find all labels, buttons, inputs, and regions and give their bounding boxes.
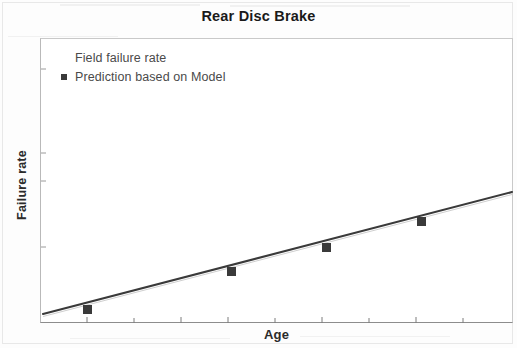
- x-axis-title: Age: [40, 327, 513, 342]
- scan-noise-streak: [230, 5, 410, 7]
- series-prediction-markers: [83, 217, 426, 314]
- y-axis-ticks: [41, 69, 46, 247]
- chart-figure: Rear Disc Brake: [0, 0, 517, 348]
- legend-label-prediction-based-on-model: Prediction based on Model: [75, 70, 226, 84]
- data-point-marker: [322, 243, 331, 252]
- chart-legend: Field failure rate Prediction based on M…: [57, 48, 297, 86]
- data-point-marker: [83, 305, 92, 314]
- chart-title: Rear Disc Brake: [0, 8, 517, 24]
- legend-item-field-failure-rate: Field failure rate: [57, 48, 297, 67]
- x-axis-ticks: [87, 317, 463, 323]
- legend-label-field-failure-rate: Field failure rate: [75, 51, 166, 65]
- y-axis-title: Failure rate: [15, 130, 29, 240]
- scan-noise-streak: [60, 4, 200, 6]
- scan-noise-streak: [8, 36, 118, 37]
- series-field-failure-rate-line: [43, 192, 512, 314]
- data-point-marker: [227, 267, 236, 276]
- legend-marker-square-icon: [57, 71, 71, 82]
- data-point-marker: [417, 217, 426, 226]
- legend-item-prediction-based-on-model: Prediction based on Model: [57, 67, 297, 86]
- legend-marker-none-icon: [57, 52, 71, 63]
- series-ghost-line: [43, 195, 512, 317]
